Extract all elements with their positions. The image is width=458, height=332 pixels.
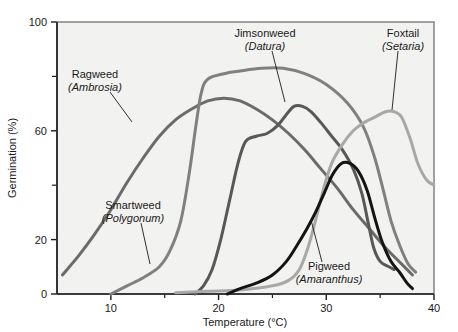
annotation-common-name: Foxtail bbox=[387, 27, 419, 39]
annotation-genus-name: (Setaria) bbox=[382, 40, 425, 52]
chart-canvas: 1020304002060100 Temperature (°C) Germin… bbox=[0, 0, 458, 332]
annotation-ragweed: Ragweed(Ambrosia) bbox=[68, 68, 122, 93]
annotation-common-name: Smartweed bbox=[105, 199, 161, 211]
germination-temperature-chart: 1020304002060100 Temperature (°C) Germin… bbox=[0, 0, 458, 332]
x-tick-label: 30 bbox=[320, 302, 332, 314]
y-tick-label: 60 bbox=[35, 125, 47, 137]
annotation-common-name: Pigweed bbox=[308, 260, 350, 272]
annotation-foxtail: Foxtail(Setaria) bbox=[382, 27, 425, 52]
annotation-genus-name: (Polygonum) bbox=[102, 212, 165, 224]
annotation-genus-name: (Amaranthus) bbox=[296, 273, 363, 285]
y-tick-label: 100 bbox=[29, 16, 47, 28]
x-axis-title: Temperature (°C) bbox=[203, 316, 287, 328]
annotation-genus-name: (Ambrosia) bbox=[68, 81, 122, 93]
y-tick-label: 20 bbox=[35, 234, 47, 246]
annotation-common-name: Jimsonweed bbox=[234, 27, 295, 39]
x-tick-label: 40 bbox=[428, 302, 440, 314]
y-axis-title: Germination (%) bbox=[6, 118, 18, 198]
x-tick-label: 10 bbox=[105, 302, 117, 314]
y-tick-label: 0 bbox=[41, 288, 47, 300]
annotation-smartweed: Smartweed(Polygonum) bbox=[102, 199, 165, 224]
annotation-common-name: Ragweed bbox=[72, 68, 118, 80]
plot-area-background bbox=[57, 22, 434, 294]
x-tick-label: 20 bbox=[212, 302, 224, 314]
annotation-genus-name: (Datura) bbox=[245, 40, 286, 52]
